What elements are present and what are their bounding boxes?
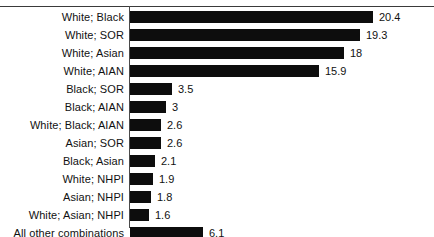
bar-row: White; Asian; NHPI1.6 [0,206,434,224]
bar-row: White; AIAN15.9 [0,62,434,80]
bar [130,11,373,23]
category-label: White; Asian [62,44,124,62]
horizontal-bar-chart: White; Black20.4White; SOR19.3White; Asi… [0,0,434,237]
bar-row: White; Asian18 [0,44,434,62]
bar-track: 1.6 [130,206,434,224]
bar-track: 18 [130,44,434,62]
bar-track: 2.1 [130,152,434,170]
bar-row: Black; SOR3.5 [0,80,434,98]
bar [130,173,153,185]
bar-value-label: 1.6 [155,206,170,224]
category-label: Asian; NHPI [63,188,124,206]
bar-value-label: 1.9 [159,170,174,188]
bar-track: 2.6 [130,116,434,134]
category-label: White; AIAN [64,62,124,80]
bar [130,101,166,113]
category-label: Black; AIAN [65,98,124,116]
category-label: All other combinations [14,224,124,237]
bar-track: 3.5 [130,80,434,98]
bar [130,29,360,41]
bar-track: 3 [130,98,434,116]
category-label: Black; SOR [66,80,124,98]
category-label: White; Black [62,8,124,26]
category-label: Black; Asian [63,152,124,170]
bar-row: Asian; SOR2.6 [0,134,434,152]
bar-value-label: 18 [350,44,362,62]
bar [130,155,155,167]
bar-row: Asian; NHPI1.8 [0,188,434,206]
bar-value-label: 2.6 [167,134,182,152]
bar-row: White; Black20.4 [0,8,434,26]
bar [130,137,161,149]
bar-rows-container: White; Black20.4White; SOR19.3White; Asi… [0,8,434,237]
bar [130,209,149,221]
category-label: White; SOR [65,26,124,44]
bar-track: 19.3 [130,26,434,44]
bar [130,65,319,77]
bar-row: White; SOR19.3 [0,26,434,44]
bar-row: Black; Asian2.1 [0,152,434,170]
bar-value-label: 1.8 [157,188,172,206]
bar [130,47,344,59]
category-label: White; Asian; NHPI [29,206,124,224]
bar [130,83,172,95]
bar-value-label: 3.5 [178,80,193,98]
bar-row: White; NHPI1.9 [0,170,434,188]
bar-track: 6.1 [130,224,434,237]
bar-row: White; Black; AIAN2.6 [0,116,434,134]
bar-track: 1.8 [130,188,434,206]
bar [130,191,151,203]
bar-row: Black; AIAN3 [0,98,434,116]
bar-value-label: 19.3 [366,26,387,44]
bar-value-label: 15.9 [325,62,346,80]
bar-value-label: 20.4 [379,8,400,26]
bar [130,227,203,237]
bar-value-label: 2.6 [167,116,182,134]
bar-track: 15.9 [130,62,434,80]
bar-row: All other combinations6.1 [0,224,434,237]
bar-track: 2.6 [130,134,434,152]
bar-value-label: 2.1 [161,152,176,170]
bar [130,119,161,131]
bar-track: 1.9 [130,170,434,188]
category-label: Asian; SOR [66,134,124,152]
bar-track: 20.4 [130,8,434,26]
top-rule-divider [0,6,434,7]
bar-value-label: 3 [172,98,178,116]
category-label: White; Black; AIAN [30,116,124,134]
category-label: White; NHPI [62,170,124,188]
bar-value-label: 6.1 [209,224,224,237]
